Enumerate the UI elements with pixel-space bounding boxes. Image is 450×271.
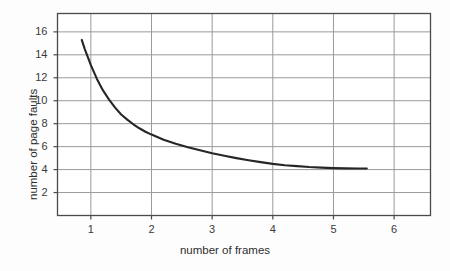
y-axis-title: number of page faults [27,89,39,200]
chart-figure: 246810121416 123456 number of frames num… [0,0,450,271]
y-tick-label: 16 [28,25,48,37]
grid-lines [58,14,431,216]
plot-canvas [0,0,450,271]
x-tick-label: 2 [142,223,162,235]
y-tick-label: 14 [28,48,48,60]
x-tick-label: 1 [81,223,101,235]
x-tick-label: 3 [202,223,222,235]
y-tick-label: 12 [28,71,48,83]
x-tick-label: 6 [384,223,404,235]
x-tick-label: 5 [323,223,343,235]
x-axis-title: number of frames [0,244,450,256]
x-tick-label: 4 [263,223,283,235]
